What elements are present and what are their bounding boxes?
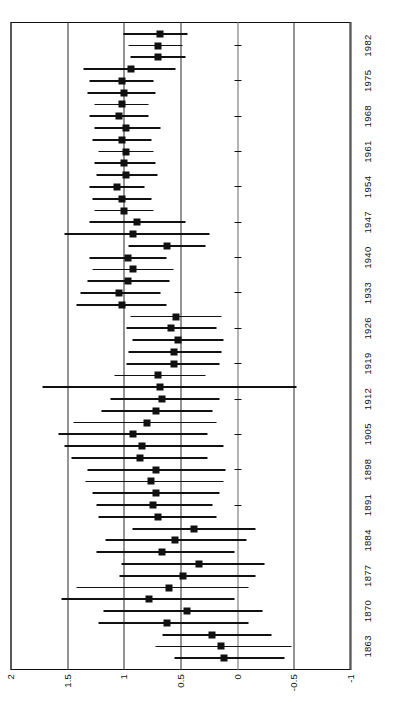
year-tick-label: 1891 [361, 494, 372, 516]
estimate-marker [154, 372, 161, 379]
estimate-marker [120, 160, 127, 167]
estimate-marker [171, 537, 178, 544]
value-tick-label: 2 [5, 674, 16, 700]
value-tick-label: -0.5 [288, 674, 299, 700]
gridline-0 [237, 22, 238, 670]
estimate-marker [122, 148, 129, 155]
confidence-interval-whisker [76, 587, 248, 589]
year-tick-label: 1982 [361, 34, 372, 56]
year-tick-label: 1933 [361, 282, 372, 304]
confidence-interval-whisker [64, 233, 209, 235]
axis-tick-1919 [234, 363, 241, 364]
estimate-marker [122, 172, 129, 179]
estimate-marker [152, 490, 159, 497]
confidence-interval-whisker [162, 634, 271, 636]
estimate-marker [179, 572, 186, 579]
axis-tick-1898 [234, 469, 241, 470]
estimate-marker [124, 254, 131, 261]
gridline-2 [10, 22, 11, 670]
year-tick-label: 1975 [361, 70, 372, 92]
year-tick-label: 1947 [361, 211, 372, 233]
estimate-marker [195, 560, 202, 567]
year-tick-label: 1877 [361, 565, 372, 587]
confidence-interval-whisker [121, 563, 264, 565]
value-tick-label: 1.5 [61, 674, 72, 700]
confidence-interval-whisker [119, 575, 255, 577]
estimate-marker [122, 125, 129, 132]
year-tick-label: 1961 [361, 140, 372, 162]
year-tick-label: 1968 [361, 105, 372, 127]
estimate-marker [129, 231, 136, 238]
confidence-interval-whisker [98, 622, 248, 624]
estimate-marker [145, 596, 152, 603]
estimate-marker [172, 313, 179, 320]
axis-tick-1940 [234, 257, 241, 258]
estimate-marker [124, 278, 131, 285]
chart-canvas: 21.510.50-0.5-1 186318701877188418911898… [0, 0, 393, 702]
estimate-marker [120, 207, 127, 214]
forest-plot: 21.510.50-0.5-1 186318701877188418911898… [10, 22, 350, 670]
confidence-interval-whisker [103, 610, 262, 612]
estimate-marker [118, 101, 125, 108]
axis-tick-1961 [234, 151, 241, 152]
estimate-marker [158, 549, 165, 556]
estimate-marker [167, 325, 174, 332]
estimate-marker [208, 631, 215, 638]
estimate-marker [217, 643, 224, 650]
estimate-marker [220, 655, 227, 662]
estimate-marker [115, 289, 122, 296]
year-tick-label: 1898 [361, 459, 372, 481]
estimate-marker [129, 266, 136, 273]
estimate-marker [149, 502, 156, 509]
year-tick-label: 1912 [361, 388, 372, 410]
estimate-marker [118, 136, 125, 143]
estimate-marker [147, 478, 154, 485]
gridline-1 [123, 22, 124, 670]
axis-tick-1947 [234, 222, 241, 223]
axis-tick-1975 [234, 80, 241, 81]
axis-tick-1968 [234, 116, 241, 117]
rotated-figure: 21.510.50-0.5-1 186318701877188418911898… [0, 0, 393, 702]
estimate-marker [156, 384, 163, 391]
estimate-marker [152, 466, 159, 473]
estimate-marker [163, 242, 170, 249]
estimate-marker [174, 337, 181, 344]
axis-tick-1891 [234, 505, 241, 506]
axis-tick-1912 [234, 399, 241, 400]
estimate-marker [118, 195, 125, 202]
estimate-marker [138, 443, 145, 450]
estimate-marker [154, 42, 161, 49]
value-tick-label: 0 [231, 674, 242, 700]
estimate-marker [190, 525, 197, 532]
axis-tick-1982 [234, 45, 241, 46]
year-tick-label: 1926 [361, 317, 372, 339]
confidence-interval-whisker [123, 33, 186, 35]
estimate-marker [165, 584, 172, 591]
confidence-interval-whisker [174, 657, 284, 659]
estimate-marker [163, 619, 170, 626]
estimate-marker [152, 407, 159, 414]
estimate-marker [154, 54, 161, 61]
confidence-interval-whisker [42, 386, 296, 388]
gridline-neg0_5 [293, 22, 294, 670]
axis-tick-1933 [234, 292, 241, 293]
year-tick-label: 1863 [361, 635, 372, 657]
gridline-1_5 [67, 22, 68, 670]
axis-tick-1954 [234, 186, 241, 187]
estimate-marker [158, 396, 165, 403]
year-tick-label: 1919 [361, 353, 372, 375]
year-tick-label: 1954 [361, 176, 372, 198]
estimate-marker [143, 419, 150, 426]
estimate-marker [170, 348, 177, 355]
value-tick-label: -1 [345, 674, 356, 700]
estimate-marker [127, 66, 134, 73]
year-tick-label: 1940 [361, 246, 372, 268]
value-tick-label: 1 [118, 674, 129, 700]
year-tick-label: 1905 [361, 423, 372, 445]
estimate-marker [133, 219, 140, 226]
estimate-marker [118, 77, 125, 84]
year-tick-label: 1884 [361, 529, 372, 551]
axis-tick-1926 [234, 328, 241, 329]
year-tick-label: 1870 [361, 600, 372, 622]
estimate-marker [120, 89, 127, 96]
